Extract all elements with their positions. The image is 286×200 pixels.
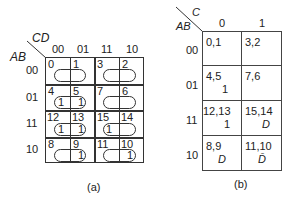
- grid-line: [202, 135, 282, 136]
- grouping-oval: [54, 69, 86, 82]
- cell-indices: 0,1: [206, 37, 221, 48]
- cell-index: 8: [48, 139, 54, 150]
- kmap-b-row-header: 10: [186, 150, 198, 161]
- cell-value: D̄: [258, 154, 266, 165]
- kmap-b-row-header: 00: [186, 45, 198, 56]
- kmap-a-row-header: 11: [26, 118, 37, 129]
- kmap-b-row-header: 01: [186, 80, 198, 91]
- cell-indices: 4,5: [206, 71, 221, 82]
- kmap-a-col-header: 01: [77, 44, 89, 55]
- kmap-a-col-header: 00: [52, 44, 64, 55]
- cell-index: 15: [97, 112, 109, 123]
- kmap-b-col-header: 1: [259, 18, 265, 29]
- cell-indices: 15,14: [245, 106, 273, 117]
- cell-index: 14: [121, 112, 133, 123]
- kmap-b-col-var: C: [192, 7, 200, 18]
- kmap-a-row-header: 10: [26, 144, 38, 155]
- kmap-b-row-header: 11: [186, 115, 197, 126]
- cell-indices: 8,9: [206, 141, 221, 152]
- cell-index: 0: [48, 59, 54, 70]
- kmap-a-caption: (a): [87, 182, 100, 193]
- grid-line: [241, 31, 242, 171]
- cell-indices: 12,13: [203, 106, 231, 117]
- grouping-oval: [103, 96, 136, 109]
- cell-indices: 3,2: [245, 37, 260, 48]
- cell-value: 1: [106, 124, 112, 135]
- cell-index: 7: [97, 86, 103, 97]
- kmap-a-col-header: 10: [126, 44, 138, 55]
- grid-line: [45, 84, 144, 86]
- cell-value: D: [262, 119, 270, 130]
- grouping-oval: [103, 69, 136, 82]
- kmap-a-col-var: CD: [32, 32, 49, 44]
- cell-index: 3: [97, 59, 103, 70]
- cell-value: 1: [78, 124, 84, 135]
- cell-value: 1: [58, 124, 64, 135]
- cell-value: D: [218, 154, 226, 165]
- cell-value: 1: [78, 150, 84, 161]
- kmap-b-col-header: 0: [219, 18, 225, 29]
- kmap-a-row-header: 00: [26, 65, 38, 76]
- cell-index: 4: [48, 86, 54, 97]
- grid-line: [202, 100, 282, 101]
- kmap-a-col-header: 11: [101, 44, 112, 55]
- cell-index: 12: [47, 112, 59, 123]
- cell-value: 1: [58, 97, 64, 108]
- cell-value: 1: [222, 84, 228, 95]
- cell-index: 13: [72, 112, 84, 123]
- kmap-a-row-var: AB: [10, 51, 26, 63]
- grid-line: [202, 65, 282, 66]
- kmap-b-caption: (b): [234, 179, 247, 190]
- kmap-a-row-header: 01: [26, 92, 38, 103]
- cell-value: 1: [127, 150, 133, 161]
- cell-value: 1: [224, 119, 230, 130]
- cell-indices: 11,10: [245, 141, 272, 152]
- cell-value: 1: [78, 97, 84, 108]
- cell-indices: 7,6: [245, 71, 260, 82]
- kmap-b-row-var: AB: [176, 21, 191, 32]
